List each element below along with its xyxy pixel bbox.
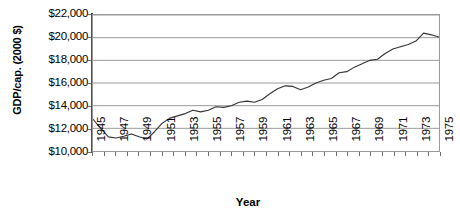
x-axis-tick-label: 1965 bbox=[328, 117, 340, 157]
x-axis-tick bbox=[347, 152, 348, 156]
x-axis-tick bbox=[301, 152, 302, 156]
x-axis-tick bbox=[185, 152, 186, 156]
x-axis-tick bbox=[370, 152, 371, 156]
x-axis-tick-label: 1947 bbox=[119, 117, 131, 157]
x-axis-tick bbox=[231, 152, 232, 156]
x-axis-tick-label: 1955 bbox=[212, 117, 224, 157]
x-axis-tick bbox=[394, 152, 395, 156]
x-axis-tick bbox=[440, 152, 441, 156]
x-axis-tick bbox=[92, 152, 93, 156]
x-axis-tick-label: 1971 bbox=[398, 117, 410, 157]
x-axis-tick-label: 1945 bbox=[96, 117, 108, 157]
x-axis-tick-label: 1963 bbox=[305, 117, 317, 157]
x-axis-tick-label: 1959 bbox=[258, 117, 270, 157]
x-axis-tick bbox=[254, 152, 255, 156]
x-axis-tick bbox=[138, 152, 139, 156]
x-axis-tick-label: 1973 bbox=[421, 117, 433, 157]
x-axis-tick-label: 1953 bbox=[189, 117, 201, 157]
x-axis-tick bbox=[208, 152, 209, 156]
x-axis-tick-label: 1951 bbox=[166, 117, 178, 157]
x-axis-tick-label: 1957 bbox=[235, 117, 247, 157]
x-axis-tick-label: 1975 bbox=[444, 117, 456, 157]
x-axis-tick-label: 1949 bbox=[142, 117, 154, 157]
x-axis-tick bbox=[162, 152, 163, 156]
x-axis-tick-label: 1961 bbox=[282, 117, 294, 157]
x-axis-tick-labels: 1945194719491951195319551957195919611963… bbox=[0, 0, 460, 221]
x-axis-tick bbox=[278, 152, 279, 156]
x-axis-title: Year bbox=[0, 196, 460, 208]
x-axis-tick bbox=[324, 152, 325, 156]
x-axis-tick bbox=[115, 152, 116, 156]
x-axis-tick bbox=[417, 152, 418, 156]
x-axis-tick-label: 1969 bbox=[374, 117, 386, 157]
x-axis-tick-label: 1967 bbox=[351, 117, 363, 157]
chart-container: GDP/cap. (2000 $) $22,000$20,000$18,000$… bbox=[0, 0, 460, 221]
